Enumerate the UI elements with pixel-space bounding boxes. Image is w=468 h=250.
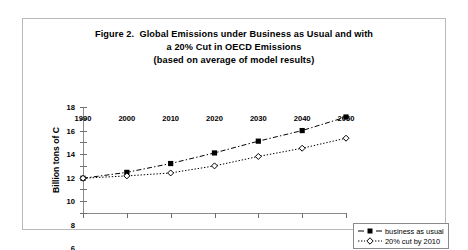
series-plot (83, 107, 346, 213)
y-axis-title: Billion tons of C (49, 107, 63, 213)
chart-title-line-3: (based on average of model results) (23, 54, 445, 67)
chart-title-line-1: Figure 2. Global Emissions under Busines… (23, 28, 445, 41)
data-point-marker (168, 170, 174, 176)
data-point-marker (300, 128, 305, 133)
data-point-marker (343, 114, 348, 119)
legend-item-20-percent-cut: 20% cut by 2010 (357, 236, 444, 246)
chart-legend: business as usual 20% cut by 2010 (353, 223, 449, 249)
series-line-1 (83, 138, 346, 178)
data-point-marker (299, 145, 305, 151)
plot-area: 024681012141618 199020002010202020302040… (83, 107, 346, 213)
y-tick-label: 6 (71, 244, 75, 250)
y-axis-title-text: Billion tons of C (51, 127, 61, 193)
x-tick-mark (302, 213, 303, 218)
chart-title-line-2: a 20% Cut in OECD Emissions (23, 41, 445, 54)
figure-frame: Figure 2. Global Emissions under Busines… (22, 18, 446, 230)
x-tick-mark (215, 213, 216, 218)
x-tick-mark (346, 213, 347, 218)
x-tick-mark (127, 213, 128, 218)
legend-marker-open-diamond (357, 236, 383, 246)
data-point-marker (255, 153, 261, 159)
data-point-marker (256, 139, 261, 144)
y-tick-label: 12 (67, 173, 75, 182)
x-tick-mark (83, 213, 84, 218)
y-tick-label: 18 (67, 103, 75, 112)
legend-marker-filled-square (357, 226, 383, 236)
legend-label-business-as-usual: business as usual (385, 227, 444, 236)
x-tick-mark (258, 213, 259, 218)
y-tick-label: 10 (67, 197, 75, 206)
legend-label-20-percent-cut: 20% cut by 2010 (385, 237, 440, 246)
data-point-marker (168, 161, 173, 166)
y-tick-label: 8 (71, 220, 75, 229)
y-tick-label: 14 (67, 150, 75, 159)
data-point-marker (212, 163, 218, 169)
data-point-marker (343, 135, 349, 141)
chart-title: Figure 2. Global Emissions under Busines… (23, 28, 445, 68)
y-tick-label: 16 (67, 126, 75, 135)
data-point-marker (212, 150, 217, 155)
legend-item-business-as-usual: business as usual (357, 226, 444, 236)
x-tick-mark (171, 213, 172, 218)
